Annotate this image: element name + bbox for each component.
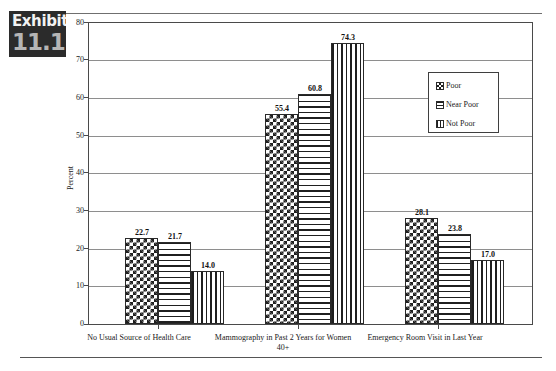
legend-label-not-poor: Not Poor	[446, 119, 475, 128]
y-tick-label: 80	[58, 19, 84, 27]
bar-value-label: 14.0	[188, 261, 228, 270]
y-tick-label: 50	[58, 132, 84, 140]
bar-poor-group3	[405, 218, 438, 324]
exhibit-badge: Exhibit 11.1	[9, 11, 66, 57]
bar-near-poor-group1	[158, 242, 191, 324]
bar-not-poor-group1	[191, 271, 224, 324]
bar-value-label: 55.4	[262, 104, 302, 113]
x-tick-mark	[158, 325, 159, 329]
bar-value-label: 21.7	[155, 232, 195, 241]
bar-not-poor-group3	[471, 260, 504, 324]
gridline	[89, 60, 532, 61]
legend-label-poor: Poor	[446, 81, 461, 90]
x-group-label-3: Emergency Room Visit in Last Year	[335, 333, 515, 343]
legend-swatch-poor-icon	[436, 82, 444, 90]
y-tick-label: 10	[58, 282, 84, 290]
legend-item-not-poor: Not Poor	[436, 119, 475, 128]
legend-swatch-near-poor-icon	[436, 101, 444, 109]
y-tick-label: 30	[58, 207, 84, 215]
x-group-label-line: Emergency Room Visit in Last Year	[335, 333, 515, 343]
y-tick-label: 40	[58, 169, 84, 177]
y-tick-label: 70	[58, 56, 84, 64]
page-rule-bottom	[20, 357, 542, 358]
y-tick-label: 60	[58, 94, 84, 102]
x-tick-mark	[438, 325, 439, 329]
bar-value-label: 28.1	[402, 208, 442, 217]
bar-value-label: 74.3	[328, 33, 368, 42]
page-rule-top	[20, 13, 542, 14]
legend-item-near-poor: Near Poor	[436, 100, 479, 109]
y-tick-label: 0	[58, 320, 84, 328]
bar-value-label: 60.8	[295, 84, 335, 93]
bar-not-poor-group2	[331, 43, 364, 324]
exhibit-number: 11.1	[12, 29, 65, 55]
bar-poor-group2	[265, 114, 298, 324]
bar-near-poor-group3	[438, 234, 471, 324]
bar-value-label: 23.8	[435, 224, 475, 233]
chart-legend: Poor Near Poor Not Poor	[428, 72, 499, 133]
bar-near-poor-group2	[298, 94, 331, 324]
legend-swatch-not-poor-icon	[436, 120, 444, 128]
chart-plot-area: 22.7 21.7 14.0 55.4 60.8 74.3 28.1 23.8 …	[88, 22, 533, 325]
bar-value-label: 17.0	[468, 250, 508, 259]
x-tick-mark	[298, 325, 299, 329]
bar-poor-group1	[125, 238, 158, 324]
y-tick-label: 20	[58, 245, 84, 253]
legend-label-near-poor: Near Poor	[446, 100, 479, 109]
x-group-label-line: 40+	[193, 343, 373, 353]
legend-item-poor: Poor	[436, 81, 461, 90]
